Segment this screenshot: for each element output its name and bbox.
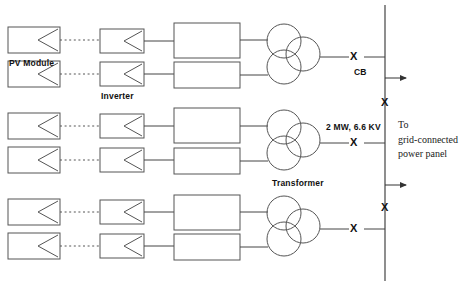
feeder-breaker-x-1: X	[350, 51, 357, 62]
inverter-symbol-3	[100, 114, 144, 138]
inverter-symbol-4	[100, 148, 144, 172]
inverter-symbol-1	[100, 29, 144, 53]
destination-label: To grid-connected power panel	[398, 118, 458, 162]
diagram-canvas: PV Module Inverter Transformer CB 2 MW, …	[0, 0, 465, 285]
feeder-breaker-x-2: X	[350, 137, 357, 148]
block-5	[174, 195, 240, 230]
inverter-label: Inverter	[101, 92, 134, 101]
inverter-symbol-2	[100, 62, 144, 86]
single-line-diagram-svg	[0, 0, 465, 285]
inverter-symbol-5	[100, 200, 144, 224]
transformer-symbol-3	[267, 196, 320, 256]
pv-module-symbol-1	[8, 27, 60, 53]
block-1	[174, 23, 240, 58]
destination-line-3: power panel	[398, 147, 458, 162]
transformer-symbol-2	[267, 110, 320, 170]
block-3	[174, 108, 240, 143]
transformer-symbol-1	[267, 24, 320, 84]
pv-module-symbol-3	[8, 113, 60, 139]
block-4	[174, 148, 240, 174]
block-6	[174, 234, 240, 260]
pv-module-symbol-5	[8, 199, 60, 225]
pv-module-symbol-6	[8, 233, 60, 259]
circuit-breaker-label: CB	[354, 68, 367, 77]
pv-module-symbol-4	[8, 147, 60, 173]
bus-breaker-x-2: X	[381, 202, 388, 213]
feeder-breaker-x-3: X	[350, 223, 357, 234]
block-2	[174, 62, 240, 88]
rating-label: 2 MW, 6.6 KV	[326, 123, 381, 132]
inverter-symbol-6	[100, 234, 144, 258]
bus-breaker-x-1: X	[381, 97, 388, 108]
pv-module-label: PV Module	[9, 59, 54, 68]
destination-line-1: To	[398, 118, 458, 133]
destination-line-2: grid-connected	[398, 133, 458, 148]
transformer-label: Transformer	[272, 179, 324, 188]
